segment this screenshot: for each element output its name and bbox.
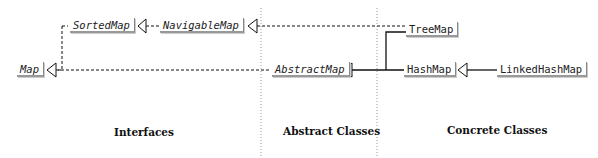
arrowhead-map bbox=[47, 63, 56, 77]
node-linkedhashmap: LinkedHashMap bbox=[497, 62, 587, 77]
node-treemap: TreeMap bbox=[406, 22, 458, 37]
section-label-abstract-classes: Abstract Classes bbox=[283, 125, 380, 137]
edge-treemap-abstract bbox=[386, 32, 406, 70]
section-label-interfaces: Interfaces bbox=[114, 126, 174, 138]
node-hashmap: HashMap bbox=[404, 62, 456, 77]
node-navigablemap: NavigableMap bbox=[160, 18, 244, 33]
section-label-concrete-classes: Concrete Classes bbox=[447, 124, 547, 136]
edge-sortedmap-map bbox=[56, 26, 62, 70]
node-abstractmap: AbstractMap bbox=[272, 62, 350, 77]
node-map: Map bbox=[17, 62, 44, 77]
arrowhead-navigablemap bbox=[248, 19, 257, 33]
arrowhead-hashmap bbox=[458, 63, 467, 77]
arrowhead-sortedmap bbox=[138, 19, 146, 33]
node-sortedmap: SortedMap bbox=[70, 18, 135, 33]
